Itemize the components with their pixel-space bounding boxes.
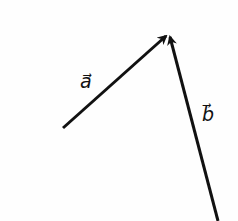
vector-b: b⃗ <box>170 37 218 221</box>
vector-b-arrow <box>170 37 218 221</box>
vector-diagram: a⃗ b⃗ <box>0 0 238 221</box>
vector-a-arrow <box>63 36 166 128</box>
vector-a: a⃗ <box>63 36 166 128</box>
diagram-canvas: a⃗ b⃗ <box>0 0 238 221</box>
vector-b-label: b⃗ <box>202 103 214 125</box>
vector-a-label: a⃗ <box>80 70 92 92</box>
